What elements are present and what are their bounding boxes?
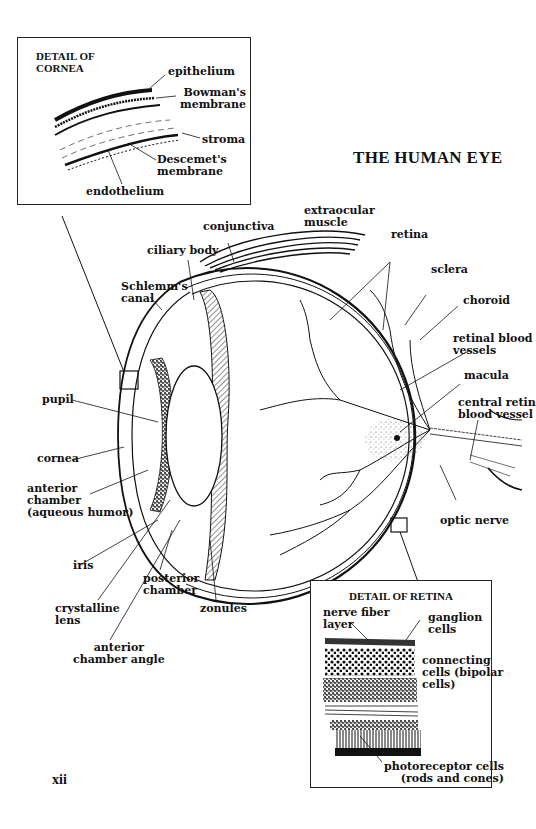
label-anterior-chamber: anterior chamber (aqueous humor)	[27, 483, 133, 519]
retina-detail-title: DETAIL OF RETINA	[349, 590, 453, 602]
label-central-retinal-blood-vessel: central retin blood vessel	[458, 397, 536, 421]
label-optic-nerve: optic nerve	[440, 515, 509, 527]
label-pupil: pupil	[42, 394, 74, 406]
label-photoreceptor-cells: photoreceptor cells (rods and cones)	[384, 761, 504, 785]
label-retina: retina	[391, 229, 428, 241]
label-extraocular-muscle: extraocular muscle	[304, 205, 375, 229]
label-macula: macula	[464, 370, 509, 382]
label-cornea: cornea	[37, 453, 79, 465]
label-descemets-membrane: Descemet's membrane	[157, 154, 227, 178]
cornea-detail-title: DETAIL OF CORNEA	[36, 50, 95, 74]
label-zonules: zonules	[200, 603, 247, 615]
page-number: xii	[52, 772, 67, 788]
page-title: THE HUMAN EYE	[353, 148, 502, 168]
label-bowmans-membrane: Bowman's membrane	[180, 87, 246, 111]
label-retinal-blood-vessels: retinal blood vessels	[453, 333, 532, 357]
label-crystalline-lens: crystalline lens	[55, 603, 120, 627]
crystalline-lens-drawing	[166, 366, 222, 506]
label-ganglion-cells: ganglion cells	[428, 612, 482, 636]
label-endothelium: endothelium	[86, 186, 164, 198]
label-nerve-fiber-layer: nerve fiber layer	[323, 607, 390, 631]
label-conjunctiva: conjunctiva	[203, 221, 274, 233]
label-sclera: sclera	[431, 264, 468, 276]
extraocular-muscle	[200, 231, 365, 272]
label-anterior-chamber-angle: anterior chamber angle	[73, 642, 165, 666]
label-posterior-chamber: posterior chamber	[143, 573, 199, 597]
label-schlemms-canal: Schlemm's canal	[121, 281, 188, 305]
label-iris: iris	[73, 560, 93, 572]
label-epithelium: epithelium	[168, 66, 235, 78]
label-stroma: stroma	[202, 134, 245, 146]
label-ciliary-body: ciliary body	[147, 245, 219, 257]
label-choroid: choroid	[463, 295, 510, 307]
label-connecting-cells: connecting cells (bipolar cells)	[422, 655, 503, 691]
